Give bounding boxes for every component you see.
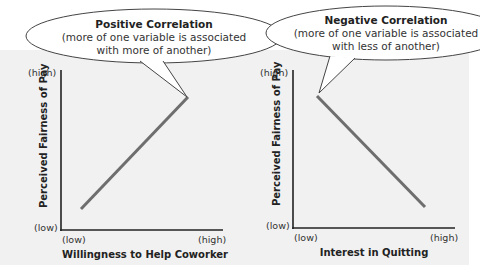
left-bubble-text: Positive Correlation (more of one variab…: [34, 18, 274, 57]
left-x-low-label: (low): [62, 234, 86, 245]
left-bubble-line2: with more of another): [34, 44, 274, 57]
right-x-low-label: (low): [294, 232, 318, 243]
left-bubble-line1: (more of one variable is associated: [34, 31, 274, 44]
right-x-axis-title: Interest in Quitting: [294, 247, 454, 258]
right-y-low-label: (low): [266, 220, 290, 231]
right-y-axis-title: Perceived Fairness of Pay: [271, 62, 282, 206]
left-trend-line: [81, 97, 188, 209]
left-x-axis-title: Willingness to Help Coworker: [62, 249, 222, 260]
right-x-high-label: (high): [430, 232, 458, 243]
right-bubble-title: Negative Correlation: [266, 14, 480, 27]
right-bubble-line2: with less of another): [266, 40, 480, 53]
left-x-high-label: (high): [198, 234, 226, 245]
left-y-axis-title: Perceived Fairness of Pay: [38, 64, 49, 208]
left-bubble-title: Positive Correlation: [34, 18, 274, 31]
right-trend-line: [317, 96, 425, 207]
right-bubble-line1: (more of one variable is associated: [266, 27, 480, 40]
left-y-low-label: (low): [34, 222, 58, 233]
right-bubble-text: Negative Correlation (more of one variab…: [266, 14, 480, 53]
